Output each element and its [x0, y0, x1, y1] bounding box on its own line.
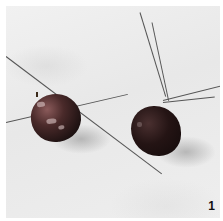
photo	[6, 6, 220, 218]
left-apple-highlight	[58, 125, 64, 130]
left-apple-highlight	[37, 101, 46, 107]
figure-number: 1	[208, 199, 215, 213]
right-apple	[131, 106, 181, 156]
left-apple-stem	[36, 92, 38, 97]
right-apple-highlight	[137, 122, 142, 127]
left-apple-highlight	[46, 118, 57, 124]
